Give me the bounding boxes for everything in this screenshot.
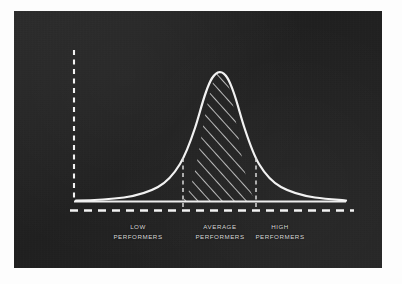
category-label-high-line2: PERFORMERS [238,232,322,242]
bell-curve-chart-panel: LOW PERFORMERS AVERAGE PERFORMERS HIGH P… [14,11,382,268]
category-label-high-line1: HIGH [238,222,322,232]
category-label-low-line2: PERFORMERS [96,232,180,242]
screenshot-root: LOW PERFORMERS AVERAGE PERFORMERS HIGH P… [0,0,402,284]
category-label-low: LOW PERFORMERS [96,222,180,241]
category-label-high: HIGH PERFORMERS [238,222,322,241]
average-performers-hatched-area [174,51,269,206]
category-label-low-line1: LOW [96,222,180,232]
